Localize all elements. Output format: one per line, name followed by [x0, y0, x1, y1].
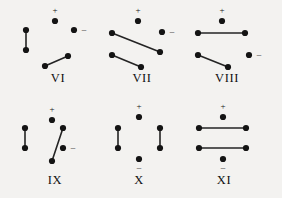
minus-terminal-dot	[246, 52, 252, 58]
panel-label: IX	[48, 173, 62, 187]
plus-sign-icon: +	[52, 5, 57, 15]
node-dot	[138, 64, 144, 70]
connection-line	[52, 128, 63, 161]
panel-label: VII	[132, 71, 151, 85]
plus-terminal-dot	[220, 114, 226, 120]
plus-terminal-dot	[136, 114, 142, 120]
plus-sign-icon: +	[49, 104, 54, 114]
node-dot	[157, 49, 163, 55]
plus-sign-icon: +	[135, 5, 140, 15]
panel-label: X	[134, 173, 144, 187]
node-dot	[195, 52, 201, 58]
panels-group: +–VI+–VII+–VIII+–IX+–X+–XI	[22, 5, 262, 187]
node-dot	[196, 145, 202, 151]
connection-line	[45, 56, 68, 66]
node-dot	[243, 125, 249, 131]
minus-sign-icon: –	[256, 49, 262, 59]
node-dot	[196, 125, 202, 131]
node-dot	[157, 125, 163, 131]
panel-ix: +–IX	[22, 104, 76, 187]
plus-sign-icon: +	[220, 101, 225, 111]
minus-sign-icon: –	[81, 24, 87, 34]
node-dot	[157, 145, 163, 151]
node-dot	[225, 64, 231, 70]
node-dot	[60, 125, 66, 131]
panel-viii: +–VIII	[195, 5, 262, 85]
plus-sign-icon: +	[219, 5, 224, 15]
panel-label: VIII	[215, 71, 239, 85]
panel-vi: +–VI	[23, 5, 87, 85]
connection-line	[112, 55, 141, 67]
node-dot	[23, 47, 29, 53]
minus-sign-icon: –	[220, 162, 226, 172]
node-dot	[243, 145, 249, 151]
node-dot	[22, 125, 28, 131]
panel-vii: +–VII	[109, 5, 175, 85]
minus-terminal-dot	[60, 145, 66, 151]
connection-line	[112, 33, 160, 52]
plus-terminal-dot	[49, 117, 55, 123]
diagram-canvas: +–VI+–VII+–VIII+–IX+–X+–XI	[0, 0, 282, 198]
plus-terminal-dot	[219, 18, 225, 24]
plus-sign-icon: +	[136, 101, 141, 111]
panel-x: +–X	[115, 101, 163, 187]
node-dot	[115, 145, 121, 151]
panel-xi: +–XI	[196, 101, 249, 187]
minus-sign-icon: –	[136, 162, 142, 172]
node-dot	[115, 125, 121, 131]
minus-sign-icon: –	[70, 142, 76, 152]
node-dot	[195, 30, 201, 36]
minus-terminal-dot	[71, 27, 77, 33]
node-dot	[49, 158, 55, 164]
panel-label: VI	[51, 71, 65, 85]
node-dot	[242, 30, 248, 36]
figure-root: +–VI+–VII+–VIII+–IX+–X+–XI	[0, 0, 282, 198]
minus-terminal-dot	[159, 29, 165, 35]
node-dot	[23, 27, 29, 33]
minus-sign-icon: –	[169, 26, 175, 36]
connection-line	[198, 55, 228, 67]
panel-label: XI	[217, 173, 231, 187]
node-dot	[109, 30, 115, 36]
node-dot	[22, 145, 28, 151]
plus-terminal-dot	[135, 18, 141, 24]
plus-terminal-dot	[52, 18, 58, 24]
node-dot	[109, 52, 115, 58]
node-dot	[65, 53, 71, 59]
node-dot	[42, 63, 48, 69]
